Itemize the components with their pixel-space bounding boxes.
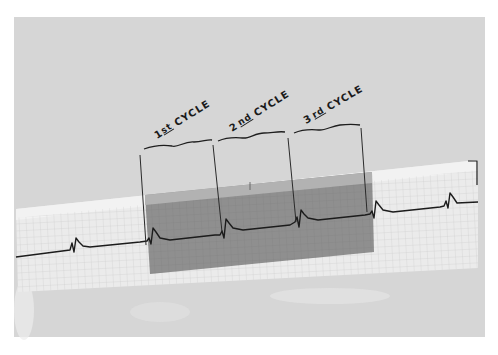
backdrop-highlight — [270, 288, 390, 304]
ecg-photo: 1stCYCLE 2ndCYCLE 3rdCYCLE — [0, 0, 498, 355]
backdrop-highlight — [130, 302, 190, 322]
